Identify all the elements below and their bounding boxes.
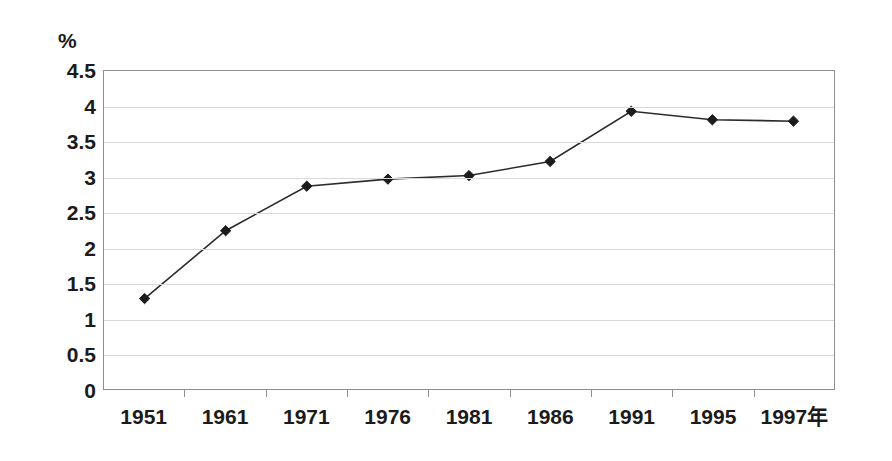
y-tick-label: 4.5 xyxy=(67,60,96,81)
x-tick-mark xyxy=(754,390,755,397)
x-axis: 195119611971197619811986199119951997年 xyxy=(103,400,835,440)
gridline xyxy=(104,355,834,356)
data-point-marker xyxy=(302,181,312,191)
x-tick-mark xyxy=(672,390,673,397)
gridline xyxy=(104,107,834,108)
y-tick-label: 3 xyxy=(84,166,96,187)
x-tick-mark xyxy=(510,390,511,397)
y-axis-unit-label: % xyxy=(58,30,77,51)
gridline xyxy=(104,142,834,143)
data-point-marker xyxy=(707,115,717,125)
gridline xyxy=(104,213,834,214)
plot-area xyxy=(103,70,835,390)
x-axis-ticks xyxy=(103,390,835,397)
y-tick-label: 1.5 xyxy=(67,273,96,294)
x-tick-mark xyxy=(428,390,429,397)
x-tick-label: 1971 xyxy=(283,406,330,427)
gridline xyxy=(104,249,834,250)
data-point-marker xyxy=(788,116,798,126)
data-point-marker xyxy=(626,106,636,116)
data-point-marker xyxy=(545,156,555,166)
y-tick-label: 2.5 xyxy=(67,202,96,223)
x-tick-label: 1976 xyxy=(364,406,411,427)
x-tick-mark xyxy=(347,390,348,397)
x-tick-mark xyxy=(266,390,267,397)
y-tick-label: 0 xyxy=(84,380,96,401)
y-axis: 4.543.532.521.510.50 xyxy=(28,70,96,390)
x-tick-label: 1961 xyxy=(202,406,249,427)
line-chart: % 4.543.532.521.510.50 19511961197119761… xyxy=(0,0,892,461)
x-tick-label: 1981 xyxy=(446,406,493,427)
data-point-marker xyxy=(383,174,393,184)
x-tick-label: 1995 xyxy=(690,406,737,427)
x-tick-mark xyxy=(184,390,185,397)
y-tick-label: 2 xyxy=(84,237,96,258)
series-polyline xyxy=(145,111,794,298)
x-tick-label: 1997年 xyxy=(760,406,828,427)
y-tick-label: 0.5 xyxy=(67,344,96,365)
data-point-marker xyxy=(464,170,474,180)
x-tick-label: 1986 xyxy=(527,406,574,427)
gridline xyxy=(104,178,834,179)
x-tick-label: 1991 xyxy=(608,406,655,427)
x-tick-mark xyxy=(591,390,592,397)
x-tick-label: 1951 xyxy=(120,406,167,427)
gridline xyxy=(104,320,834,321)
gridline xyxy=(104,284,834,285)
data-series-line xyxy=(104,71,834,389)
y-tick-label: 1 xyxy=(84,308,96,329)
y-tick-label: 4 xyxy=(84,95,96,116)
y-tick-label: 3.5 xyxy=(67,131,96,152)
